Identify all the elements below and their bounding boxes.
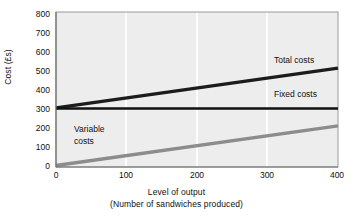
cost-chart: Cost (£s) 800 700 600 500 400 300 200 10… (0, 0, 353, 224)
annotation-fixed-costs: Fixed costs (274, 89, 317, 99)
annotation-variable-costs-line1: Variable (74, 124, 105, 134)
x-axis-title-block: Level of output (Number of sandwiches pr… (0, 186, 353, 210)
annotation-total-costs: Total costs (274, 55, 314, 65)
annotation-variable-costs-line2: costs (74, 136, 94, 146)
x-axis-subtitle: (Number of sandwiches produced) (0, 198, 353, 210)
x-axis-title: Level of output (0, 186, 353, 198)
